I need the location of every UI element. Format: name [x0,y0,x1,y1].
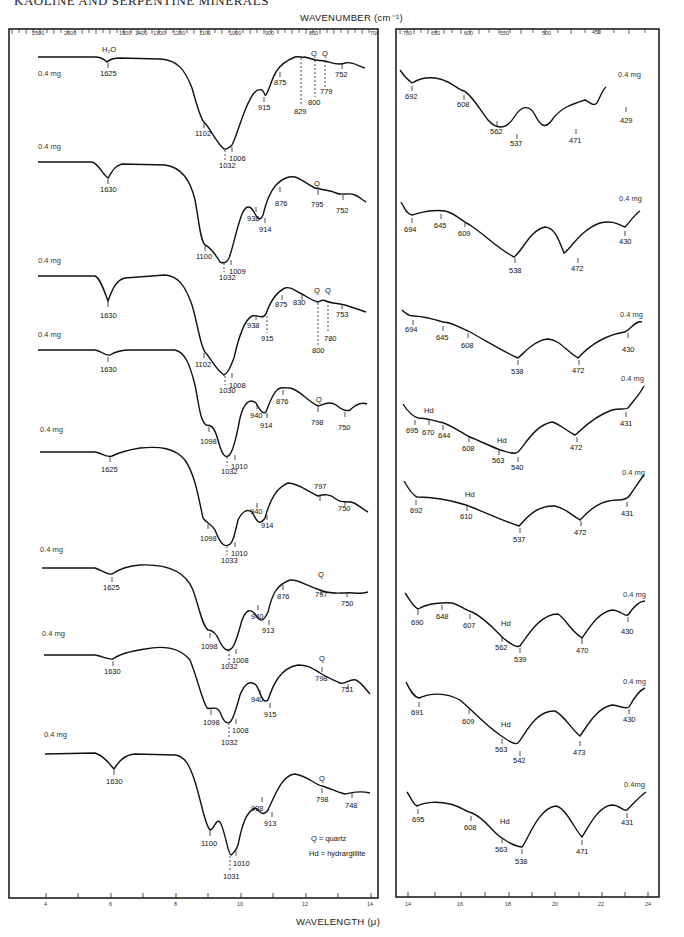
svg-text:779: 779 [320,87,333,96]
svg-text:609: 609 [458,229,471,238]
svg-text:18: 18 [505,901,511,907]
svg-text:1000: 1000 [229,30,241,36]
svg-text:913: 913 [264,819,277,828]
svg-text:539: 539 [514,655,527,664]
svg-text:538: 538 [511,367,524,376]
svg-text:1010: 1010 [233,859,250,868]
right-spectrum-3: 0.4 mg 694 645 608 538 472 430 [402,310,643,376]
legend-hydrargillite: Hd = hydrargillite [309,849,365,858]
svg-text:540: 540 [511,463,524,472]
svg-text:562: 562 [495,643,508,652]
svg-text:538: 538 [509,266,522,275]
svg-text:430: 430 [622,345,635,354]
svg-text:542: 542 [513,756,526,765]
svg-text:915: 915 [264,710,277,719]
left-bottom-axis: 4 6 8 10 12 14 [44,893,373,907]
svg-text:14: 14 [367,901,373,907]
svg-text:0.4 mg: 0.4 mg [38,330,61,339]
right-spectrum-1: 0.4 mg 692 608 562 537 471 429 [400,70,641,148]
svg-text:670: 670 [422,428,435,437]
svg-text:Hd: Hd [501,720,511,729]
svg-text:0.4 mg: 0.4 mg [38,69,61,78]
svg-text:1006: 1006 [229,154,246,163]
svg-text:1625: 1625 [101,465,118,474]
svg-text:900: 900 [265,30,274,36]
svg-text:4: 4 [44,901,47,907]
right-spectrum-8: 0.4mg Hd 695 608 563 538 471 431 [407,780,646,866]
svg-text:14: 14 [405,901,411,907]
svg-text:876: 876 [275,199,288,208]
svg-text:940: 940 [250,507,263,516]
svg-text:Q: Q [325,286,331,295]
svg-text:650: 650 [431,30,440,36]
svg-text:0.4 mg: 0.4 mg [44,730,67,739]
svg-text:0.4 mg: 0.4 mg [42,629,65,638]
svg-text:430: 430 [621,627,634,636]
svg-text:940: 940 [251,695,264,704]
svg-text:430: 430 [619,237,632,246]
svg-text:471: 471 [576,847,589,856]
svg-text:Hd: Hd [497,436,507,445]
svg-text:8: 8 [174,901,177,907]
svg-text:550: 550 [500,30,509,36]
svg-text:H₂O: H₂O [102,45,116,54]
svg-text:1630: 1630 [106,777,123,786]
svg-text:798: 798 [316,795,329,804]
svg-text:753: 753 [336,310,349,319]
svg-text:0.4 mg: 0.4 mg [38,256,61,265]
svg-text:750: 750 [341,599,354,608]
svg-text:938: 938 [251,804,264,813]
left-spectrum-2: 0.4 mg 1630 1100 1032 1009 938 914 876 7… [38,142,366,282]
svg-text:472: 472 [572,366,585,375]
svg-text:1400: 1400 [135,30,147,36]
svg-text:795: 795 [311,200,324,209]
svg-text:12: 12 [302,901,308,907]
svg-text:750: 750 [338,423,351,432]
svg-text:830: 830 [293,298,306,307]
svg-text:537: 537 [513,535,526,544]
svg-text:691: 691 [411,708,424,717]
svg-text:472: 472 [571,264,584,273]
svg-text:563: 563 [495,845,508,854]
svg-text:Q: Q [319,774,325,783]
svg-text:431: 431 [621,509,634,518]
svg-text:Hd: Hd [465,490,475,499]
svg-text:16: 16 [457,901,463,907]
svg-text:0.4 mg: 0.4 mg [620,310,643,319]
svg-text:1032: 1032 [221,738,238,747]
svg-text:692: 692 [410,506,423,515]
svg-text:798: 798 [311,418,324,427]
svg-text:608: 608 [457,100,470,109]
svg-text:0.4 mg: 0.4 mg [621,374,644,383]
svg-text:Q: Q [314,179,320,188]
svg-text:1625: 1625 [100,69,117,78]
svg-text:1630: 1630 [100,365,117,374]
svg-text:1625: 1625 [103,583,120,592]
svg-text:562: 562 [490,127,503,136]
svg-text:694: 694 [404,225,417,234]
svg-text:538: 538 [515,857,528,866]
svg-text:1008: 1008 [232,656,249,665]
right-top-axis: 700 650 600 550 500 450 [403,29,601,36]
svg-text:780: 780 [324,334,337,343]
svg-text:752: 752 [335,70,348,79]
svg-text:473: 473 [573,748,586,757]
svg-text:1098: 1098 [200,534,217,543]
svg-text:1500: 1500 [119,30,131,36]
svg-text:829: 829 [294,107,307,116]
svg-text:700: 700 [370,30,379,36]
svg-text:751: 751 [341,685,354,694]
svg-text:1630: 1630 [104,667,121,676]
svg-text:1009: 1009 [229,267,246,276]
svg-text:430: 430 [623,715,636,724]
svg-text:Q: Q [319,654,325,663]
svg-text:914: 914 [261,521,274,530]
svg-text:913: 913 [262,626,275,635]
svg-text:0.4 mg: 0.4 mg [618,70,641,79]
svg-text:695: 695 [406,426,419,435]
svg-text:938: 938 [247,214,260,223]
right-bottom-axis: 14 16 18 20 22 24 [405,892,651,907]
svg-text:22: 22 [598,901,604,907]
svg-text:0.4 mg: 0.4 mg [40,545,63,554]
svg-text:800: 800 [309,30,318,36]
